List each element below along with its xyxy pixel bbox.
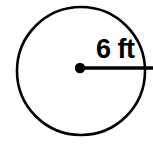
diagram-canvas [0, 0, 153, 149]
radius-measure-label: 6 ft [96, 36, 135, 63]
center-point-dot [75, 63, 85, 73]
circle-diagram: 6 ft [0, 0, 153, 149]
